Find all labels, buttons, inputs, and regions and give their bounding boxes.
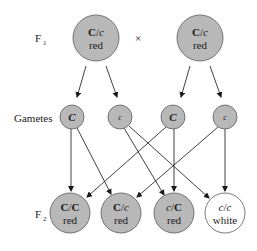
cross-symbol: × bbox=[135, 32, 141, 44]
f2-label: F 2 bbox=[35, 208, 47, 223]
f2-offspring-2: C/c red bbox=[101, 193, 141, 233]
gamete-2: c bbox=[108, 105, 132, 129]
f2-offspring-1: C/C red bbox=[50, 193, 90, 233]
svg-text:red: red bbox=[193, 39, 208, 51]
svg-text:1: 1 bbox=[43, 39, 47, 47]
svg-text:C: C bbox=[68, 111, 76, 123]
svg-text:white: white bbox=[213, 214, 238, 226]
svg-text:F: F bbox=[35, 32, 41, 44]
svg-text:C/C: C/C bbox=[61, 201, 80, 213]
svg-text:c: c bbox=[118, 113, 122, 122]
svg-text:c/c: c/c bbox=[219, 201, 232, 213]
svg-text:red: red bbox=[167, 214, 182, 226]
gamete-1: C bbox=[60, 105, 84, 129]
f2-offspring-3: c/C red bbox=[154, 193, 194, 233]
gamete-3: C bbox=[161, 105, 185, 129]
gametes-label: Gametes bbox=[14, 112, 52, 124]
f2-offspring-4: c/c white bbox=[205, 193, 245, 233]
svg-text:C/c: C/c bbox=[88, 26, 104, 38]
svg-text:c: c bbox=[223, 113, 227, 122]
genetic-cross-diagram: F 1 × Gametes F 2 C/c red bbox=[0, 0, 257, 251]
f1-label: F 1 bbox=[35, 32, 47, 47]
svg-text:c/C: c/C bbox=[166, 201, 182, 213]
svg-text:2: 2 bbox=[43, 215, 47, 223]
svg-text:red: red bbox=[114, 214, 129, 226]
svg-text:C: C bbox=[169, 111, 177, 123]
svg-text:red: red bbox=[63, 214, 78, 226]
svg-text:F: F bbox=[35, 208, 41, 220]
f1-parent-2: C/c red bbox=[177, 15, 223, 61]
gamete-4: c bbox=[213, 105, 237, 129]
svg-text:C/c: C/c bbox=[192, 26, 208, 38]
f1-parent-1: C/c red bbox=[73, 15, 119, 61]
f1-gamete-arrows bbox=[77, 66, 221, 97]
gamete-f2-arrows bbox=[71, 126, 225, 198]
svg-text:red: red bbox=[89, 39, 104, 51]
svg-text:C/c: C/c bbox=[113, 201, 129, 213]
